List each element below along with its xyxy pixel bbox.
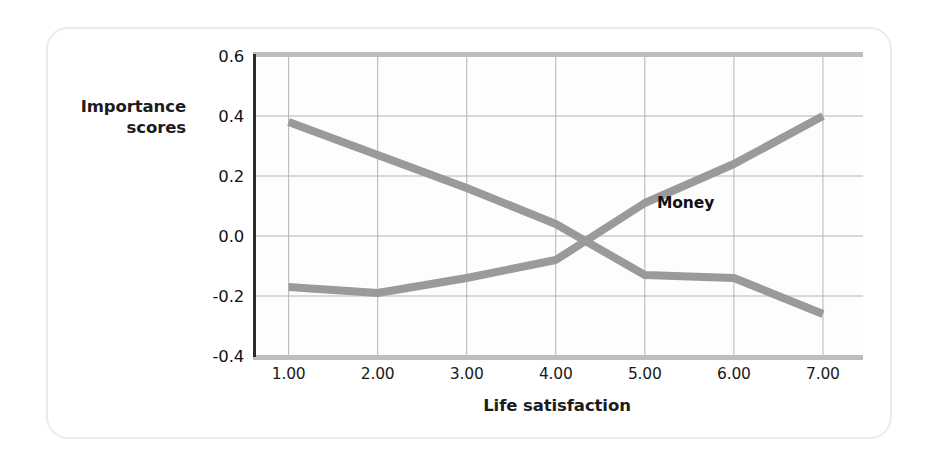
y-tick-label: 0.6 [182,47,244,66]
x-tick-label: 6.00 [699,365,769,383]
x-tick-label: 5.00 [610,365,680,383]
x-tick-label: 2.00 [343,365,413,383]
data-series-lines [253,56,863,356]
x-tick-label: 4.00 [521,365,591,383]
x-tick-label: 3.00 [432,365,502,383]
plot-border-bottom [253,355,863,360]
y-axis-title-line-2: scores [56,117,186,138]
y-axis-title: Importance scores [56,96,186,138]
y-axis-tick-labels: -0.4-0.20.00.20.40.6 [180,56,244,356]
x-tick-label: 1.00 [254,365,324,383]
y-axis-line [253,54,256,357]
series-label-money: Money [657,194,714,212]
y-tick-label: 0.2 [182,167,244,186]
series-line-money [289,122,823,314]
y-tick-label: 0.4 [182,107,244,126]
y-axis-title-line-1: Importance [56,96,186,117]
plot-border-top [253,52,863,57]
x-tick-label: 7.00 [788,365,858,383]
plot-area: Money Love [253,56,863,356]
y-tick-label: -0.2 [182,287,244,306]
x-axis-tick-labels: 1.002.003.004.005.006.007.00 [253,365,863,391]
series-line-love [289,116,823,293]
figure-page: Importance scores -0.4-0.20.00.20.40.6 M… [0,0,933,462]
x-axis-title: Life satisfaction [252,396,862,415]
y-tick-label: -0.4 [182,347,244,366]
y-tick-label: 0.0 [182,227,244,246]
